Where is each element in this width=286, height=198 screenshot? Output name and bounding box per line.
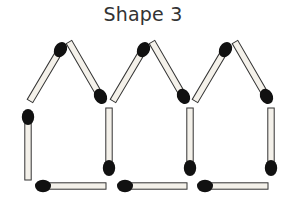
match-head (22, 109, 34, 125)
matchstick (64, 39, 110, 107)
match-stick-body (206, 183, 268, 189)
match-stick-body (25, 118, 31, 180)
matches-group (22, 39, 277, 192)
match-stick-body (149, 40, 186, 97)
match-stick-body (268, 108, 274, 167)
matchstick (197, 180, 268, 192)
match-stick-body (106, 108, 112, 167)
matchstick-diagram (0, 0, 286, 198)
match-stick-body (44, 183, 106, 189)
match-stick-body (66, 40, 103, 97)
matchstick (108, 40, 153, 105)
match-head (184, 160, 196, 176)
matchstick (265, 108, 277, 176)
match-head (265, 160, 277, 176)
matchstick (35, 180, 106, 192)
match-stick-body (126, 183, 187, 189)
matchstick (22, 109, 34, 180)
matchstick (190, 40, 235, 105)
match-head (117, 180, 133, 192)
match-head (35, 180, 51, 192)
matchstick (184, 108, 196, 176)
matchstick (25, 40, 70, 105)
matchstick (103, 108, 115, 176)
match-head (103, 160, 115, 176)
matchstick (147, 39, 193, 107)
match-stick-body (232, 40, 269, 97)
match-stick-body (187, 108, 193, 167)
match-head (197, 180, 213, 192)
matchstick (117, 180, 187, 192)
matchstick (230, 39, 276, 107)
